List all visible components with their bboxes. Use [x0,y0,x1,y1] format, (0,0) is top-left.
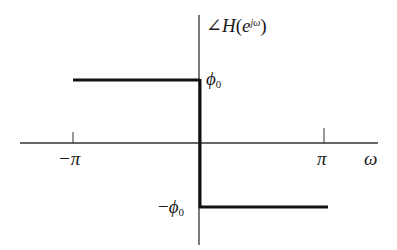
phase-plot-canvas [0,0,397,250]
tick-label-minus-pi: −π [58,148,80,170]
phi-subscript: 0 [216,78,222,90]
x-axis-label: ω [364,148,377,170]
minus-sign: − [158,196,169,217]
phi-symbol: ϕ [206,68,216,89]
angle-symbol: ∠ [206,15,222,36]
paren-close: ) [260,15,266,36]
level-label-negative: −ϕ0 [158,196,184,218]
phi-subscript: 0 [179,206,185,218]
tick-label-pi: π [317,148,327,170]
level-label-positive: ϕ0 [206,68,221,90]
y-axis-label: ∠H(ejω) [206,14,267,37]
exponent: jω [250,17,260,28]
phi-symbol: ϕ [169,196,179,217]
func-name: H [222,15,236,36]
